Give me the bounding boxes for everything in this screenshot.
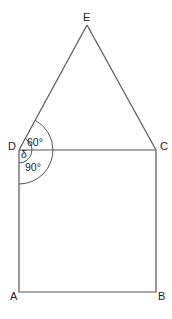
angle-90-label: 90° [25, 161, 41, 173]
side-ce [87, 25, 156, 150]
vertex-label-c: C [160, 140, 168, 152]
angle-60-label: 60° [27, 136, 43, 148]
vertex-label-d: D [8, 140, 16, 152]
side-de [19, 25, 87, 150]
geometry-diagram: 60° δ 90° E D C A B [0, 0, 172, 319]
vertex-label-e: E [83, 11, 90, 23]
vertex-label-b: B [158, 290, 165, 302]
vertex-label-a: A [10, 290, 18, 302]
angle-delta-label: δ [21, 148, 27, 160]
